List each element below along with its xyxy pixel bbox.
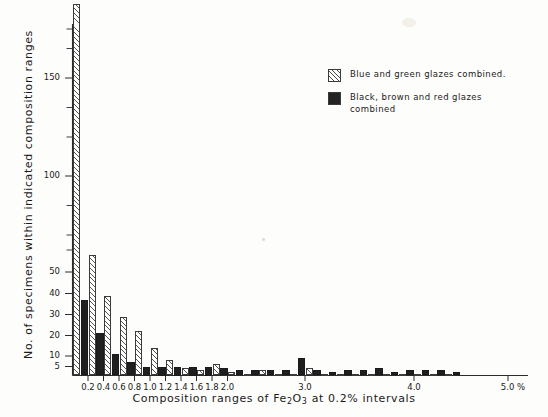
bar-solid-2.4	[251, 370, 258, 375]
bar-hatched-0.6	[104, 296, 111, 376]
xtick-label-3.0: 3.0	[293, 382, 317, 392]
bar-solid-0.2	[81, 300, 88, 376]
hatched-swatch-icon	[328, 69, 341, 82]
xtick-label-2.0: 2.0	[216, 382, 240, 392]
bar-hatched-2.8	[275, 374, 282, 376]
bar-solid-4.6	[422, 370, 429, 375]
bar-solid-1.2	[158, 367, 165, 376]
legend-item-blue-green: Blue and green glazes combined.	[328, 68, 530, 82]
bar-solid-4.8	[437, 370, 444, 375]
bar-solid-1.6	[189, 367, 196, 376]
bar-solid-3.4	[329, 372, 336, 376]
bar-solid-3.2	[313, 370, 320, 375]
bar-solid-2.0	[220, 368, 227, 375]
bar-hatched-3.8	[352, 374, 359, 376]
bar-solid-3.8	[360, 370, 367, 375]
bar-hatched-2.6	[259, 370, 266, 375]
bar-hatched-2.2	[228, 372, 235, 376]
bar-solid-4.2	[391, 372, 398, 376]
xtick-label-5.0: 5.0 %	[496, 382, 530, 392]
bar-solid-5.0	[453, 372, 460, 376]
bar-hatched-4.0	[368, 374, 375, 376]
y-axis-title: No. of specimens within indicated compos…	[22, 30, 35, 360]
ytick-label-30: 30	[34, 309, 60, 319]
ytick-label-100: 100	[34, 170, 60, 180]
bar-hatched-3.0	[290, 374, 297, 376]
ytick-label-40: 40	[34, 288, 60, 298]
bar-solid-2.2	[236, 370, 243, 375]
bar-hatched-1.0	[135, 331, 142, 375]
bar-solid-3.0	[298, 358, 305, 375]
ytick-label-10: 10	[34, 350, 60, 360]
bar-hatched-0.2	[73, 4, 80, 376]
bar-hatched-0.4	[89, 255, 96, 376]
bar-solid-1.0	[143, 367, 150, 376]
bar-hatched-2.4	[244, 374, 251, 376]
ytick-label-50: 50	[34, 266, 60, 276]
bar-hatched-1.4	[166, 360, 173, 375]
bar-hatched-4.4	[399, 374, 406, 376]
bar-solid-4.0	[375, 368, 382, 375]
x-axis-title-pre: Composition ranges of Fe	[132, 392, 286, 405]
bar-hatched-4.2	[383, 374, 390, 376]
x-axis-title: Composition ranges of Fe2O3 at 0.2% inte…	[0, 392, 548, 406]
histogram-figure: 150 100 50 40 30 20 10 5 0.2 0.4 0.6 0.8…	[0, 0, 548, 417]
bar-hatched-3.2	[306, 368, 313, 375]
bar-hatched-2.0	[213, 364, 220, 375]
ytick-label-150: 150	[34, 72, 60, 82]
x-axis-title-mid: O	[293, 392, 302, 405]
bar-hatched-1.8	[197, 370, 204, 375]
bar-solid-0.4	[96, 333, 103, 375]
bar-hatched-4.6	[414, 374, 421, 376]
bar-solid-4.4	[406, 370, 413, 375]
bar-solid-1.8	[205, 367, 212, 376]
ytick-label-5: 5	[34, 361, 60, 371]
bar-hatched-3.6	[337, 374, 344, 376]
bar-hatched-1.6	[182, 368, 189, 375]
solid-black-swatch-icon	[328, 92, 341, 105]
ytick-label-20: 20	[34, 330, 60, 340]
legend-label-blue-green: Blue and green glazes combined.	[350, 68, 506, 80]
bar-hatched-4.8	[430, 374, 437, 376]
bar-solid-1.4	[174, 367, 181, 376]
bar-solid-0.6	[112, 354, 119, 376]
bar-solid-2.8	[282, 370, 289, 375]
bar-solid-0.8	[127, 362, 134, 375]
xtick-label-4.0: 4.0	[402, 382, 426, 392]
bar-hatched-0.8	[120, 317, 127, 376]
legend-item-black-brown-red: Black, brown and red glazes combined	[328, 91, 530, 116]
bar-hatched-1.2	[151, 348, 158, 376]
chart-legend: Blue and green glazes combined. Black, b…	[328, 68, 530, 125]
x-axis-title-post: at 0.2% intervals	[308, 392, 416, 405]
legend-label-black-brown-red: Black, brown and red glazes combined	[350, 91, 530, 116]
bar-solid-2.6	[267, 370, 274, 375]
bar-hatched-3.4	[321, 374, 328, 376]
bar-solid-3.6	[344, 370, 351, 375]
bar-hatched-5.0	[445, 374, 452, 376]
